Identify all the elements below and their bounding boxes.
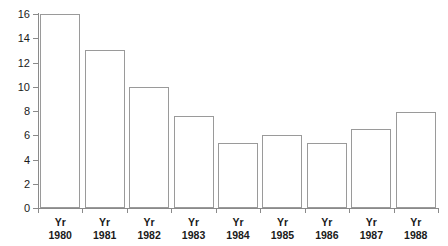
x-axis-category-label: Yr1988 <box>394 216 438 242</box>
y-axis-tick-label: 14 <box>4 33 30 44</box>
y-axis-tick <box>33 63 39 64</box>
x-axis-category-label: Yr1985 <box>260 216 304 242</box>
x-axis-category-label: Yr1987 <box>349 216 393 242</box>
x-axis-category-label: Yr1980 <box>38 216 82 242</box>
y-axis-tick-label: 8 <box>4 106 30 117</box>
y-axis-tick <box>33 111 39 112</box>
bar <box>129 87 169 208</box>
x-axis-unit-text: Yr <box>216 216 260 229</box>
x-axis-unit-text: Yr <box>349 216 393 229</box>
bar <box>218 143 258 208</box>
x-axis-tick <box>349 208 350 213</box>
x-axis-tick <box>216 208 217 213</box>
y-axis-tick-label: 12 <box>4 58 30 69</box>
x-axis-year-text: 1988 <box>394 229 438 242</box>
y-axis-tick-label: 2 <box>4 179 30 190</box>
x-axis-year-text: 1980 <box>38 229 82 242</box>
y-axis-tick <box>33 38 39 39</box>
bar <box>174 116 214 208</box>
x-axis-year-text: 1985 <box>260 229 304 242</box>
bar <box>307 143 347 208</box>
y-axis-tick <box>33 87 39 88</box>
y-axis-tick <box>33 184 39 185</box>
bar <box>40 14 80 208</box>
x-axis-category-label: Yr1983 <box>171 216 215 242</box>
y-axis-tick-label: 10 <box>4 82 30 93</box>
bar <box>351 129 391 208</box>
x-axis-category-label: Yr1984 <box>216 216 260 242</box>
x-axis-tick <box>38 208 39 213</box>
y-axis-tick-label: 4 <box>4 155 30 166</box>
x-axis-year-text: 1984 <box>216 229 260 242</box>
x-axis-unit-text: Yr <box>171 216 215 229</box>
x-axis-unit-text: Yr <box>38 216 82 229</box>
bar-chart: 0246810121416 Yr1980Yr1981Yr1982Yr1983Yr… <box>0 0 448 246</box>
x-axis-category-label: Yr1986 <box>305 216 349 242</box>
x-axis-unit-text: Yr <box>394 216 438 229</box>
bar <box>396 112 436 208</box>
y-axis-tick <box>33 160 39 161</box>
x-axis-unit-text: Yr <box>127 216 171 229</box>
x-axis-year-text: 1982 <box>127 229 171 242</box>
x-axis-year-text: 1986 <box>305 229 349 242</box>
bar <box>85 50 125 208</box>
x-axis-line <box>38 208 438 209</box>
x-axis-tick <box>305 208 306 213</box>
x-axis-tick <box>394 208 395 213</box>
x-axis-tick <box>438 208 439 213</box>
x-axis-tick <box>171 208 172 213</box>
x-axis-tick <box>260 208 261 213</box>
x-axis-year-text: 1987 <box>349 229 393 242</box>
x-axis-year-text: 1981 <box>82 229 126 242</box>
y-axis-tick <box>33 14 39 15</box>
x-axis-unit-text: Yr <box>305 216 349 229</box>
x-axis-category-label: Yr1982 <box>127 216 171 242</box>
x-axis-tick <box>82 208 83 213</box>
x-axis-year-text: 1983 <box>171 229 215 242</box>
y-axis-tick-label: 0 <box>4 203 30 214</box>
y-axis-tick-label: 6 <box>4 130 30 141</box>
x-axis-unit-text: Yr <box>82 216 126 229</box>
x-axis-category-label: Yr1981 <box>82 216 126 242</box>
y-axis-tick <box>33 135 39 136</box>
bar <box>262 135 302 208</box>
y-axis-tick-label: 16 <box>4 9 30 20</box>
x-axis-tick <box>127 208 128 213</box>
x-axis-unit-text: Yr <box>260 216 304 229</box>
